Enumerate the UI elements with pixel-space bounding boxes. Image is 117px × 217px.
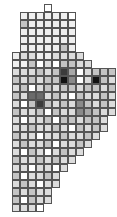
map-cell [36,60,44,68]
map-cell [36,196,44,204]
map-cell [100,108,108,116]
map-cell [20,20,28,28]
map-cell [36,84,44,92]
map-cell [52,172,60,180]
map-cell [12,132,20,140]
map-cell [108,68,116,76]
map-cell [60,124,68,132]
map-cell [28,60,36,68]
map-cell [52,28,60,36]
map-cell [28,124,36,132]
map-cell [68,28,76,36]
map-cell [84,100,92,108]
map-cell [20,76,28,84]
map-cell [28,156,36,164]
map-cell [84,116,92,124]
map-cell [28,188,36,196]
map-cell [36,124,44,132]
map-cell [28,140,36,148]
map-cell [52,76,60,84]
map-cell [84,108,92,116]
map-cell [68,108,76,116]
map-cell [44,44,52,52]
map-cell [20,108,28,116]
map-cell [44,28,52,36]
map-cell [44,76,52,84]
map-cell [76,124,84,132]
map-cell [84,124,92,132]
map-cell [28,36,36,44]
map-cell [20,12,28,20]
map-cell [36,108,44,116]
map-cell [52,92,60,100]
map-cell [108,92,116,100]
grid-cartogram-map [0,0,117,217]
map-cell [20,100,28,108]
map-cell [36,172,44,180]
map-cell [68,140,76,148]
map-cell [52,156,60,164]
map-cell [44,116,52,124]
map-cell [36,140,44,148]
map-cell [20,52,28,60]
map-cell [68,92,76,100]
map-cell [20,92,28,100]
map-cell [44,140,52,148]
map-cell [60,92,68,100]
map-cell [28,172,36,180]
map-cell [92,132,100,140]
map-cell [52,132,60,140]
map-cell [52,100,60,108]
map-cell [76,108,84,116]
map-cell [12,188,20,196]
map-cell [36,36,44,44]
map-cell [44,68,52,76]
map-cell [44,156,52,164]
map-cell [60,52,68,60]
map-cell [44,172,52,180]
map-cell [28,196,36,204]
map-cell [28,12,36,20]
map-cell [20,116,28,124]
map-cell [12,60,20,68]
map-cell [12,172,20,180]
map-cell [36,204,44,212]
map-cell [60,84,68,92]
map-cell [76,68,84,76]
map-cell [76,52,84,60]
map-cell [68,68,76,76]
map-cell [76,92,84,100]
map-cell [68,44,76,52]
map-cell [20,68,28,76]
map-cell [60,60,68,68]
map-cell [28,164,36,172]
map-cell [36,44,44,52]
map-cell [68,84,76,92]
map-cell [28,52,36,60]
map-cell [108,76,116,84]
map-cell [12,124,20,132]
map-cell [92,100,100,108]
map-cell [52,60,60,68]
map-cell [92,84,100,92]
map-cell [52,12,60,20]
map-cell [52,164,60,172]
map-cell [44,164,52,172]
map-cell [20,172,28,180]
map-cell [36,164,44,172]
map-cell [44,60,52,68]
map-cell [44,92,52,100]
map-cell [36,20,44,28]
map-cell [68,156,76,164]
map-cell [92,116,100,124]
map-cell [68,36,76,44]
map-cell [12,140,20,148]
map-cell [100,124,108,132]
map-cell [92,76,100,84]
map-cell [44,148,52,156]
map-cell [52,108,60,116]
map-cell [36,100,44,108]
map-cell [84,132,92,140]
map-cell [92,124,100,132]
map-cell [100,92,108,100]
